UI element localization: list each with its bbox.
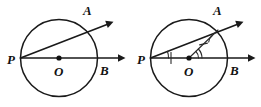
angle-arc-at-p-right — [167, 51, 168, 58]
ray-pb-arrowhead-left — [118, 54, 126, 62]
point-label-b-left: B — [99, 63, 109, 78]
angle-arc-at-a-right — [209, 36, 212, 42]
right-figure: P A B O — [137, 3, 256, 97]
center-dot-left — [56, 55, 61, 60]
geometry-figure-panel: P A B O — [0, 0, 261, 107]
center-label-o-right: O — [184, 64, 194, 79]
point-label-p-right: P — [137, 52, 146, 67]
point-label-p-left: P — [7, 52, 16, 67]
angle-arc-at-o-inner-right — [196, 51, 199, 58]
point-label-a-right: A — [212, 3, 222, 18]
point-label-a-left: A — [82, 3, 92, 18]
center-dot-right — [186, 55, 191, 60]
geometry-figure-svg: P A B O — [0, 0, 261, 107]
center-label-o-left: O — [54, 64, 64, 79]
ray-pb-arrowhead-right — [248, 54, 256, 62]
left-figure: P A B O — [7, 3, 126, 97]
point-label-b-right: B — [229, 63, 239, 78]
